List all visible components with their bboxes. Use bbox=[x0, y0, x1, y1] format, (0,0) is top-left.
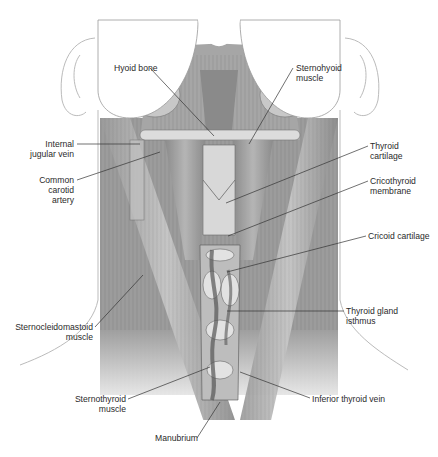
label-cricothyroid-membrane: Cricothyroid membrane bbox=[370, 176, 416, 196]
left-ear bbox=[61, 38, 95, 116]
label-sternothyroid-muscle: Sternothyroid muscle bbox=[75, 394, 126, 414]
neck-anatomy-illustration: Hyoid bone Sternohyoid muscle Internal j… bbox=[0, 0, 438, 457]
label-common-carotid-artery: Common carotid artery bbox=[39, 175, 74, 205]
label-sternohyoid-muscle: Sternohyoid muscle bbox=[296, 63, 342, 83]
label-inferior-thyroid-vein: Inferior thyroid vein bbox=[312, 394, 385, 404]
label-manubrium: Manubrium bbox=[155, 433, 198, 443]
label-internal-jugular-vein: Internal jugular vein bbox=[30, 139, 74, 159]
anatomy-drawing bbox=[0, 0, 438, 457]
label-cricoid-cartilage: Cricoid cartilage bbox=[368, 231, 430, 241]
label-thyroid-cartilage: Thyroid cartilage bbox=[370, 141, 402, 161]
right-ear bbox=[345, 38, 379, 116]
label-hyoid-bone: Hyoid bone bbox=[114, 63, 157, 73]
label-sternocleidomastoid-muscle: Sternocleidomastoid muscle bbox=[15, 322, 93, 342]
label-thyroid-gland-isthmus: Thyroid gland isthmus bbox=[346, 306, 398, 326]
